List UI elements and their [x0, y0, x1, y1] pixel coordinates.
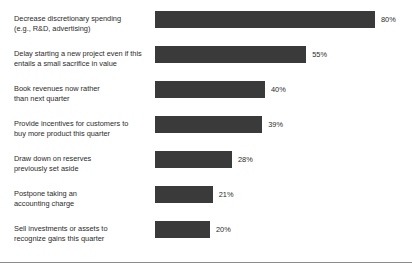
category-label: Delay starting a new project even if thi…	[14, 49, 150, 68]
category-label-line1: Draw down on reserves	[14, 154, 150, 164]
bar-track	[155, 11, 375, 28]
bar-value-label: 28%	[238, 155, 253, 164]
bar-value-label: 40%	[271, 85, 286, 94]
category-label-line2: recognize gains this quarter	[14, 234, 150, 244]
category-label: Provide incentives for customers tobuy m…	[14, 119, 150, 138]
bar-fill	[155, 116, 262, 133]
bar-fill	[155, 81, 265, 98]
bar-track	[155, 116, 262, 133]
bar-row: Provide incentives for customers tobuy m…	[0, 116, 412, 151]
category-label: Decrease discretionary spending(e.g., R&…	[14, 14, 150, 33]
bar-value-label: 20%	[216, 225, 231, 234]
bar-value-label: 21%	[219, 190, 234, 199]
footer-divider	[0, 262, 412, 263]
category-label-line2: accounting charge	[14, 199, 150, 209]
category-label-line2: (e.g., R&D, advertising)	[14, 24, 150, 34]
bar-fill	[155, 186, 213, 203]
category-label-line2: buy more product this quarter	[14, 129, 150, 139]
bar-row: Delay starting a new project even if thi…	[0, 46, 412, 81]
category-label: Draw down on reservespreviously set asid…	[14, 154, 150, 173]
category-label-line1: Provide incentives for customers to	[14, 119, 150, 129]
bar-row: Postpone taking anaccounting charge21%	[0, 186, 412, 221]
category-label-line1: Book revenues now rather	[14, 84, 150, 94]
bar-row: Sell investments or assets torecognize g…	[0, 221, 412, 256]
bar-track	[155, 221, 210, 238]
bar-value-label: 80%	[381, 15, 396, 24]
category-label-line2: previously set aside	[14, 164, 150, 174]
bar-track	[155, 81, 265, 98]
bar-chart: Decrease discretionary spending(e.g., R&…	[0, 0, 412, 274]
bar-row: Book revenues now ratherthan next quarte…	[0, 81, 412, 116]
bar-fill	[155, 221, 210, 238]
bar-row: Decrease discretionary spending(e.g., R&…	[0, 11, 412, 46]
category-label-line1: Decrease discretionary spending	[14, 14, 150, 24]
category-label-line2: than next quarter	[14, 94, 150, 104]
bar-row: Draw down on reservespreviously set asid…	[0, 151, 412, 186]
category-label: Book revenues now ratherthan next quarte…	[14, 84, 150, 103]
bar-track	[155, 46, 306, 63]
bar-value-label: 39%	[268, 120, 283, 129]
bar-value-label: 55%	[312, 50, 327, 59]
category-label-line1: Postpone taking an	[14, 189, 150, 199]
bar-fill	[155, 151, 232, 168]
category-label: Sell investments or assets torecognize g…	[14, 224, 150, 243]
category-label: Postpone taking anaccounting charge	[14, 189, 150, 208]
category-label-line2: entails a small sacrifice in value	[14, 59, 150, 69]
chart-plot-area: Decrease discretionary spending(e.g., R&…	[0, 0, 412, 262]
bar-track	[155, 186, 213, 203]
category-label-line1: Delay starting a new project even if thi…	[14, 49, 150, 59]
category-label-line1: Sell investments or assets to	[14, 224, 150, 234]
bar-track	[155, 151, 232, 168]
bar-fill	[155, 11, 375, 28]
bar-fill	[155, 46, 306, 63]
